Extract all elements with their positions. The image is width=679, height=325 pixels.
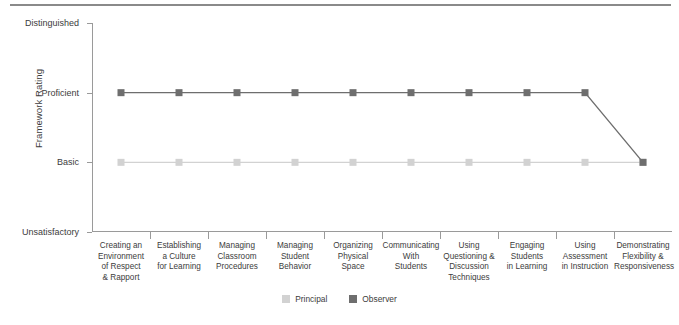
chart-legend: PrincipalObserver — [0, 294, 679, 304]
category-label-line: Flexibility & — [614, 252, 672, 263]
data-point-marker — [408, 89, 415, 96]
data-point-marker — [582, 89, 589, 96]
category-label-line: Creating an — [92, 241, 150, 252]
category-label-line: Students — [498, 252, 556, 263]
legend-item-principal[interactable]: Principal — [282, 294, 327, 304]
data-point-marker — [234, 159, 241, 166]
series-principal — [118, 159, 647, 166]
category-label-line: Classroom — [208, 252, 266, 263]
category-label-line: Managing — [266, 241, 324, 252]
category-label-line: Procedures — [208, 262, 266, 273]
x-axis-category-labels: Creating anEnvironmentof Respect& Rappor… — [92, 233, 672, 289]
category-label-line: & Rapport — [92, 273, 150, 284]
data-point-marker — [292, 89, 299, 96]
series-observer — [118, 89, 647, 166]
category-label-line: Behavior — [266, 262, 324, 273]
category-label-line: in Instruction — [556, 262, 614, 273]
legend-item-observer[interactable]: Observer — [349, 294, 396, 304]
series-layer — [92, 23, 672, 232]
data-point-marker — [524, 89, 531, 96]
category-label-line: With — [382, 252, 440, 263]
x-axis-category-label: EngagingStudentsin Learning — [498, 241, 556, 273]
x-axis-category-label: ManagingStudentBehavior — [266, 241, 324, 273]
legend-swatch-icon — [282, 295, 290, 303]
data-point-marker — [234, 89, 241, 96]
category-label-line: Student — [266, 252, 324, 263]
x-axis-category-label: Creating anEnvironmentof Respect& Rappor… — [92, 241, 150, 283]
data-point-marker — [176, 159, 183, 166]
category-label-line: Techniques — [440, 273, 498, 284]
x-axis-category-label: Establishinga Culturefor Learning — [150, 241, 208, 273]
category-label-line: Demonstrating — [614, 241, 672, 252]
y-axis-tick-label: Proficient — [41, 88, 79, 98]
plot-area: DistinguishedProficientBasicUnsatisfacto… — [92, 23, 672, 232]
legend-label: Principal — [295, 294, 327, 304]
data-point-marker — [350, 159, 357, 166]
data-point-marker — [582, 159, 589, 166]
category-label-line: Responsiveness — [614, 262, 672, 273]
category-label-line: Physical — [324, 252, 382, 263]
category-label-line: Organizing — [324, 241, 382, 252]
category-label-line: Students — [382, 262, 440, 273]
category-label-line: Discussion — [440, 262, 498, 273]
x-axis-category-label: UsingAssessmentin Instruction — [556, 241, 614, 273]
y-axis-tick-label: Unsatisfactory — [22, 227, 79, 237]
category-label-line: Using — [440, 241, 498, 252]
x-axis-category-label: CommunicatingWithStudents — [382, 241, 440, 273]
x-axis-category-label: UsingQuestioning &DiscussionTechniques — [440, 241, 498, 283]
category-label-line: a Culture — [150, 252, 208, 263]
data-point-marker — [350, 89, 357, 96]
y-axis-tick-label: Distinguished — [25, 18, 79, 28]
data-point-marker — [466, 159, 473, 166]
category-label-line: Questioning & — [440, 252, 498, 263]
category-label-line: Engaging — [498, 241, 556, 252]
chart-page: Framework Rating DistinguishedProficient… — [0, 0, 679, 325]
legend-swatch-icon — [349, 295, 357, 303]
data-point-marker — [524, 159, 531, 166]
category-label-line: Assessment — [556, 252, 614, 263]
x-axis-category-label: OrganizingPhysicalSpace — [324, 241, 382, 273]
data-point-marker — [118, 89, 125, 96]
category-label-line: Using — [556, 241, 614, 252]
category-label-line: of Respect — [92, 262, 150, 273]
category-label-line: in Learning — [498, 262, 556, 273]
data-point-marker — [292, 159, 299, 166]
x-axis-category-label: DemonstratingFlexibility &Responsiveness — [614, 241, 672, 273]
y-axis-tick-label: Basic — [57, 157, 79, 167]
category-label-line: Managing — [208, 241, 266, 252]
data-point-marker — [408, 159, 415, 166]
category-label-line: Establishing — [150, 241, 208, 252]
data-point-marker — [640, 159, 647, 166]
legend-label: Observer — [362, 294, 396, 304]
x-axis-category-label: ManagingClassroomProcedures — [208, 241, 266, 273]
category-label-line: Environment — [92, 252, 150, 263]
data-point-marker — [466, 89, 473, 96]
category-label-line: Communicating — [382, 241, 440, 252]
category-label-line: Space — [324, 262, 382, 273]
data-point-marker — [176, 89, 183, 96]
series-line — [121, 93, 643, 163]
y-axis-title: Framework Rating — [33, 19, 44, 199]
top-divider-rule — [10, 4, 671, 6]
data-point-marker — [118, 159, 125, 166]
category-label-line: for Learning — [150, 262, 208, 273]
